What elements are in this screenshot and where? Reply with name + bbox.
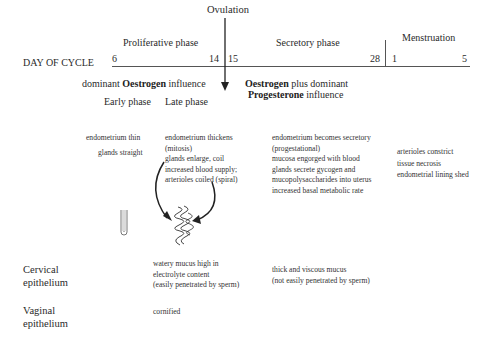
influence-line2: influence — [304, 89, 344, 100]
secretory-item: increased basal metabolic rate — [272, 186, 372, 197]
straight-gland-icon — [120, 210, 128, 236]
progesterone-influence: Oestrogen plus dominant Progesterone inf… — [245, 78, 348, 100]
late-item: endometrium thickens — [165, 133, 238, 144]
vaginal-late-text: cornified — [153, 307, 180, 318]
label-line: Cervical — [23, 263, 68, 276]
progesterone-bold: Progesterone — [248, 89, 304, 100]
proliferative-phase-label: Proliferative phase — [123, 37, 198, 48]
menstruation-divider — [385, 40, 386, 67]
timeline-axis-right — [225, 66, 470, 67]
menstruation-item: tissue necrosis — [397, 158, 469, 170]
menstruation-item: arterioles constrict — [397, 146, 469, 158]
day-of-cycle-label: DAY OF CYCLE — [23, 57, 94, 68]
cervical-secretory-text: thick and viscous mucus (not easily pene… — [272, 265, 370, 286]
coiled-gland-icon — [170, 205, 200, 247]
day-6: 6 — [112, 53, 117, 64]
label-line: Vaginal — [23, 304, 68, 317]
late-item: (mitosis) — [165, 144, 238, 155]
secretory-item: (progestational) — [272, 144, 372, 155]
label-line: epithelium — [23, 317, 68, 330]
cervical-late-text: watery mucus high in electrolyte content… — [153, 259, 239, 291]
day-5: 5 — [462, 53, 467, 64]
menstruation-item: endometrial lining shed — [397, 169, 469, 181]
cervical-late-line: (easily penetrated by sperm) — [153, 280, 239, 291]
secretory-item: mucosa engorged with blood — [272, 154, 372, 165]
menstruation-endometrium-list: arterioles constrict tissue necrosis end… — [397, 146, 469, 181]
timeline-axis-left — [112, 66, 230, 67]
oestrogen-bold: Oestrogen — [245, 78, 289, 89]
early-glands-straight: glands straight — [98, 148, 143, 159]
vaginal-epithelium-label: Vaginal epithelium — [23, 304, 68, 330]
day-1: 1 — [392, 53, 397, 64]
influence-pre: dominant — [82, 78, 122, 89]
label-line: epithelium — [23, 276, 68, 289]
secretory-item: mucopolysaccharides into uterus — [272, 175, 372, 186]
influence-post: influence — [166, 78, 206, 89]
late-phase-label: Late phase — [165, 96, 208, 107]
cervical-secretory-line: thick and viscous mucus — [272, 265, 370, 276]
oestrogen-bold: Oestrogen — [122, 78, 166, 89]
ovulation-label: Ovulation — [207, 4, 249, 15]
secretory-phase-label: Secretory phase — [276, 37, 340, 48]
influence-line1: plus dominant — [289, 78, 348, 89]
cervical-late-line: watery mucus high in — [153, 259, 239, 270]
day-14: 14 — [209, 53, 219, 64]
cervical-secretory-line: (not easily penetrated by sperm) — [272, 276, 370, 287]
ovulation-arrow-icon — [220, 18, 230, 92]
menstruation-label: Menstruation — [402, 32, 455, 43]
secretory-item: glands secrete gycogen and — [272, 165, 372, 176]
secretory-item: endometrium becomes secretory — [272, 133, 372, 144]
early-endometrium-thin: endometrium thin — [86, 133, 140, 144]
oestrogen-influence: dominant Oestrogen influence — [82, 78, 206, 89]
cervical-late-line: electrolyte content — [153, 270, 239, 281]
early-phase-label: Early phase — [104, 96, 151, 107]
secretory-endometrium-list: endometrium becomes secretory (progestat… — [272, 133, 372, 196]
cervical-epithelium-label: Cervical epithelium — [23, 263, 68, 289]
day-28: 28 — [370, 53, 380, 64]
